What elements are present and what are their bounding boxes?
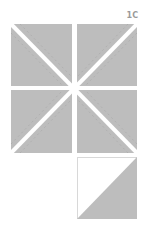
half-square-triangle (77, 157, 137, 219)
quilt-block-diagram (0, 0, 150, 233)
